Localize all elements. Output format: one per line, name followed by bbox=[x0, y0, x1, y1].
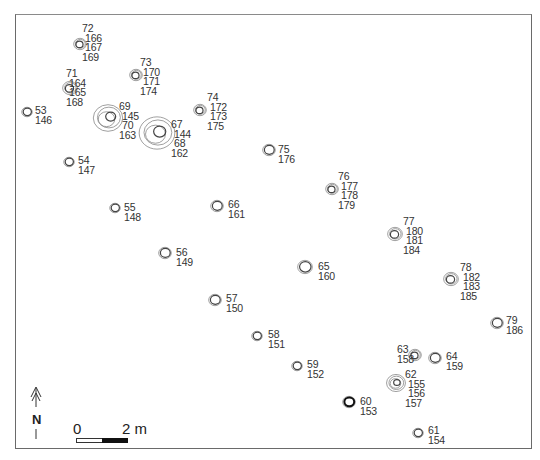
feature-55 bbox=[110, 203, 121, 213]
feature-label-78: 78182183185 bbox=[460, 263, 480, 301]
feature-77 bbox=[388, 227, 403, 240]
feature-number: 154 bbox=[428, 436, 445, 446]
feature-62 bbox=[387, 374, 406, 391]
feature-label-62: 62155156157 bbox=[405, 370, 425, 408]
feature-number: 148 bbox=[124, 213, 141, 223]
feature-label-56: 56149 bbox=[176, 248, 193, 267]
feature-65 bbox=[298, 260, 313, 273]
feature-number: 147 bbox=[78, 166, 95, 176]
feature-label-77: 77180181184 bbox=[403, 217, 423, 255]
feature-number: 160 bbox=[318, 272, 335, 282]
feature-54 bbox=[64, 157, 75, 167]
feature-label-71: 71164165168 bbox=[66, 69, 86, 107]
feature-label-66: 66161 bbox=[228, 200, 245, 219]
contour-ring bbox=[328, 186, 335, 192]
contour-ring bbox=[492, 318, 502, 327]
feature-label-67: 6714468162 bbox=[171, 120, 191, 158]
feature-label-72: 72166167169 bbox=[82, 24, 102, 62]
feature-67 bbox=[139, 117, 175, 149]
feature-label-65: 65160 bbox=[318, 262, 335, 281]
feature-label-79: 79186 bbox=[506, 316, 523, 335]
contour-ring bbox=[154, 126, 166, 137]
feature-number: 159 bbox=[446, 362, 463, 372]
feature-number: 151 bbox=[268, 340, 285, 350]
contour-ring bbox=[389, 376, 404, 389]
feature-number: 146 bbox=[35, 116, 52, 126]
feature-label-61: 61154 bbox=[428, 426, 445, 445]
contour-ring bbox=[394, 380, 400, 386]
feature-label-60: 60153 bbox=[360, 397, 377, 416]
contour-ring bbox=[65, 158, 73, 165]
contour-ring bbox=[23, 108, 31, 115]
contour-ring bbox=[264, 145, 274, 154]
feature-66 bbox=[211, 200, 224, 211]
north-label: N bbox=[32, 412, 41, 427]
feature-label-55: 55148 bbox=[124, 203, 141, 222]
scale-end-label: 2 m bbox=[122, 420, 147, 437]
feature-number: 149 bbox=[176, 258, 193, 268]
feature-61 bbox=[413, 428, 424, 438]
feature-label-59: 59152 bbox=[307, 360, 324, 379]
feature-number: 179 bbox=[338, 201, 358, 211]
feature-53 bbox=[22, 107, 33, 117]
contour-ring bbox=[144, 120, 172, 145]
feature-58 bbox=[252, 331, 263, 341]
feature-number: 158 bbox=[397, 355, 414, 365]
contour-ring bbox=[344, 397, 354, 406]
scale-segment-black bbox=[102, 438, 128, 443]
feature-label-58: 58151 bbox=[268, 330, 285, 349]
feature-number: 184 bbox=[403, 246, 423, 256]
feature-label-57: 57150 bbox=[226, 294, 243, 313]
contour-ring bbox=[212, 201, 222, 210]
feature-75 bbox=[263, 144, 276, 155]
contour-ring bbox=[253, 332, 261, 339]
feature-78 bbox=[444, 272, 459, 285]
contour-ring bbox=[111, 204, 119, 211]
feature-60 bbox=[343, 396, 356, 407]
feature-label-63: 63158 bbox=[397, 345, 414, 364]
feature-number: 161 bbox=[228, 210, 245, 220]
feature-number: 163 bbox=[119, 131, 139, 141]
scale-segment-white bbox=[76, 438, 103, 443]
feature-label-69: 6914570163 bbox=[119, 102, 139, 140]
feature-number: 168 bbox=[66, 98, 86, 108]
contour-ring bbox=[387, 374, 406, 391]
contour-ring bbox=[160, 248, 170, 257]
feature-57 bbox=[209, 294, 222, 305]
feature-number: 162 bbox=[171, 149, 191, 159]
contour-ring bbox=[446, 276, 454, 283]
feature-label-53: 53146 bbox=[35, 106, 52, 125]
contour-ring bbox=[132, 72, 139, 78]
feature-number: 185 bbox=[460, 292, 480, 302]
feature-label-54: 54147 bbox=[78, 156, 95, 175]
contour-ring bbox=[196, 107, 203, 113]
contour-ring bbox=[430, 353, 440, 362]
feature-64 bbox=[429, 352, 442, 363]
feature-79 bbox=[491, 317, 504, 328]
feature-number: 152 bbox=[307, 370, 324, 380]
feature-label-74: 74172173175 bbox=[207, 93, 227, 131]
feature-label-76: 76177178179 bbox=[338, 172, 358, 210]
contour-ring bbox=[293, 362, 301, 369]
feature-label-73: 73170171174 bbox=[140, 58, 160, 96]
feature-number: 175 bbox=[207, 122, 227, 132]
scale-start-label: 0 bbox=[73, 420, 81, 437]
feature-number: 150 bbox=[226, 304, 243, 314]
feature-74 bbox=[194, 104, 207, 115]
contour-ring bbox=[210, 295, 220, 304]
feature-56 bbox=[159, 247, 172, 258]
feature-76 bbox=[326, 183, 339, 194]
feature-59 bbox=[292, 361, 303, 371]
feature-number: 174 bbox=[140, 87, 160, 97]
feature-number: 157 bbox=[405, 399, 425, 409]
feature-number: 176 bbox=[278, 155, 295, 165]
contour-ring bbox=[300, 262, 311, 272]
feature-number: 153 bbox=[360, 407, 377, 417]
contour-ring bbox=[414, 429, 422, 436]
feature-label-75: 75176 bbox=[278, 145, 295, 164]
feature-number: 169 bbox=[82, 53, 102, 63]
feature-number: 186 bbox=[506, 326, 523, 336]
contour-ring bbox=[139, 117, 175, 149]
feature-label-64: 64159 bbox=[446, 352, 463, 371]
contour-ring bbox=[390, 231, 398, 238]
